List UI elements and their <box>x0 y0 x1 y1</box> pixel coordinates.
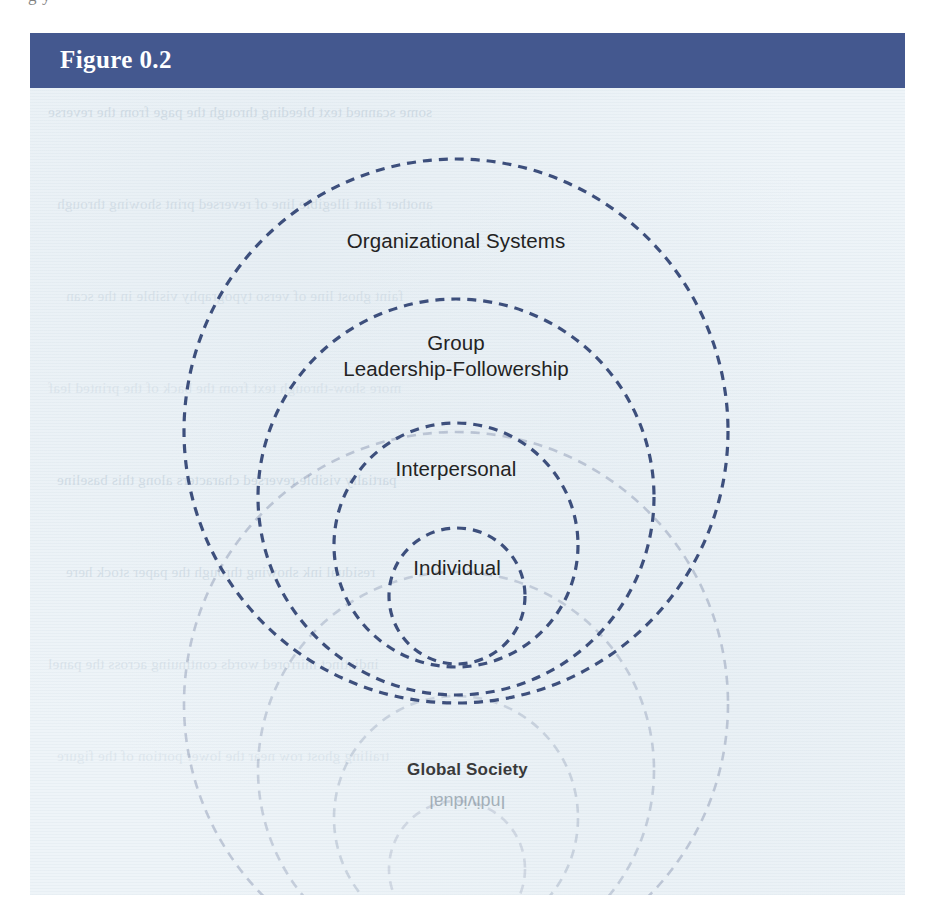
ring-label-group-leadership-followership: GroupLeadership-Followership <box>30 330 882 382</box>
ring-label-line: Leadership-Followership <box>30 356 882 382</box>
figure-container: Figure 0.2 some scanned text bleeding th… <box>30 33 905 895</box>
ghost-ring-1 <box>258 572 654 895</box>
global-society-bleed-label: Global Society <box>30 760 905 780</box>
figure-header-bar: Figure 0.2 <box>30 33 905 88</box>
ring-label-individual: Individual <box>30 555 884 581</box>
ring-label-interpersonal: Interpersonal <box>30 456 882 482</box>
figure-body-panel: some scanned text bleeding through the p… <box>30 88 905 895</box>
ring-label-line: Individual <box>30 555 884 581</box>
page-top-bleed-artifact: g y <box>0 0 925 30</box>
top-bleed-text: g y <box>28 0 51 6</box>
ring-label-line: Group <box>30 330 882 356</box>
ring-label-organizational-systems: Organizational Systems <box>30 228 882 254</box>
ring-individual <box>389 528 525 664</box>
ring-label-line: Interpersonal <box>30 456 882 482</box>
ring-label-line: Organizational Systems <box>30 228 882 254</box>
ghost-ring-3 <box>389 801 525 895</box>
ghost-rings-group <box>184 432 728 895</box>
individual-mirrored-bleed-label: Individual <box>30 791 905 812</box>
figure-title: Figure 0.2 <box>60 46 172 74</box>
